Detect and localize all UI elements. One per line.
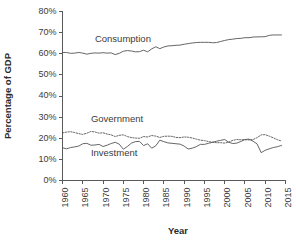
x-axis-title: Year	[168, 225, 188, 236]
y-tick-label: 50%	[38, 69, 56, 79]
series-label-consumption: Consumption	[95, 33, 151, 44]
y-tick-label: 70%	[38, 27, 56, 37]
x-tick-label: 1980	[141, 188, 151, 208]
x-tick-label: 1990	[182, 188, 192, 208]
y-tick-label: 10%	[38, 154, 56, 164]
chart-plot-area: 0%10%20%30%40%50%60%70%80% 1960196519701…	[0, 0, 296, 241]
y-tick-label: 0%	[43, 175, 56, 185]
x-tick-label: 1975	[121, 188, 131, 208]
x-tick-label: 1970	[101, 188, 111, 208]
y-tick-label: 30%	[38, 112, 56, 122]
gdp-components-chart: 0%10%20%30%40%50%60%70%80% 1960196519701…	[0, 0, 296, 241]
series-labels: ConsumptionGovernmentInvestment	[91, 33, 151, 158]
x-tick-label: 2015	[283, 188, 293, 208]
x-tick-label: 2005	[243, 188, 253, 208]
y-tick-label: 20%	[38, 133, 56, 143]
x-tick-label: 1985	[161, 188, 171, 208]
y-tick-label: 40%	[38, 90, 56, 100]
series-label-investment: Investment	[91, 147, 138, 158]
x-tick-label: 2000	[222, 188, 232, 208]
x-tick-label: 1960	[60, 188, 70, 208]
x-tick-label: 1965	[80, 188, 90, 208]
x-tick-label: 1995	[202, 188, 212, 208]
series-label-government: Government	[91, 113, 144, 124]
series-line-government	[63, 131, 282, 143]
series-lines	[63, 35, 282, 153]
y-axis-title: Percentage of GDP	[2, 52, 13, 139]
x-axis: 1960196519701975198019851990199520002005…	[60, 181, 293, 208]
y-axis: 0%10%20%30%40%50%60%70%80%	[38, 6, 62, 185]
y-tick-label: 60%	[38, 48, 56, 58]
y-tick-label: 80%	[38, 6, 56, 16]
x-tick-label: 2010	[263, 188, 273, 208]
